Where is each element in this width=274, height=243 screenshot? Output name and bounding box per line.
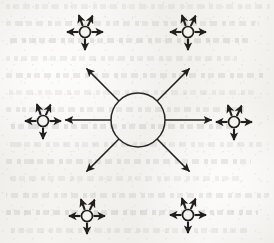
satellite-top-left-circle <box>80 27 91 38</box>
radial-diagram <box>0 0 274 243</box>
satellite-bottom-left-ray-1-arrow-icon <box>90 200 95 210</box>
satellite-top-left-ray-0-arrow-icon <box>79 15 83 26</box>
satellite-bottom-left-circle <box>82 211 93 222</box>
satellite-top-left <box>67 15 103 50</box>
satellite-bottom-right <box>170 198 206 233</box>
satellite-left-ray-1-arrow-icon <box>46 105 51 115</box>
satellite-right-circle <box>229 117 240 128</box>
satellite-top-right-ray-0-arrow-icon <box>182 15 186 26</box>
spoke-northeast-arrow-icon <box>157 68 190 101</box>
satellite-bottom-right-ray-1-arrow-icon <box>191 199 196 209</box>
satellite-bottom-right-circle <box>183 210 194 221</box>
spoke-southwest-arrow-icon <box>86 139 119 172</box>
satellite-right <box>216 105 252 140</box>
scanned-page <box>0 0 274 243</box>
hub-circle <box>111 93 165 147</box>
spoke-northwest-arrow-icon <box>86 68 119 101</box>
satellite-bottom-right-ray-0-arrow-icon <box>182 198 186 209</box>
satellite-top-right <box>170 15 206 50</box>
spoke-arrows <box>65 68 212 171</box>
satellite-bottom-left <box>69 199 105 234</box>
satellite-left <box>25 104 61 139</box>
satellite-right-ray-0-arrow-icon <box>228 105 232 116</box>
spoke-southeast-arrow-icon <box>157 139 190 172</box>
satellite-top-right-circle <box>183 27 194 38</box>
satellite-right-ray-1-arrow-icon <box>237 106 242 116</box>
satellite-left-ray-0-arrow-icon <box>37 104 41 115</box>
satellite-left-circle <box>38 116 49 127</box>
satellite-top-left-ray-1-arrow-icon <box>88 16 93 26</box>
satellite-bottom-left-ray-0-arrow-icon <box>81 199 85 210</box>
satellite-top-right-ray-1-arrow-icon <box>191 16 196 26</box>
hub-node <box>111 93 165 147</box>
satellite-nodes <box>25 15 252 234</box>
